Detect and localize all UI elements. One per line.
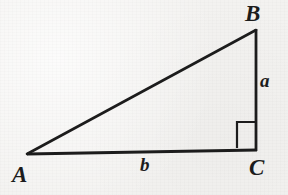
side-label-a: a	[260, 71, 270, 90]
side-c-hypotenuse-line	[27, 30, 256, 154]
right-angle-marker-icon	[237, 122, 255, 148]
triangle-figure: A B C a b	[0, 0, 288, 195]
vertex-label-b: B	[245, 2, 260, 25]
vertex-label-a: A	[12, 163, 27, 186]
vertex-label-c: C	[249, 156, 264, 179]
side-label-b: b	[140, 155, 150, 174]
